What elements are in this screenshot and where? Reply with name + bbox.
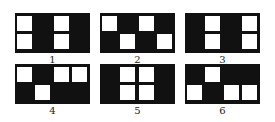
white-square: [242, 85, 257, 100]
white-square: [35, 85, 50, 100]
pattern-panel-4: [15, 64, 90, 104]
pattern-panel-6: [185, 64, 260, 104]
white-square: [157, 34, 172, 49]
white-square: [17, 34, 32, 49]
white-square: [187, 85, 202, 100]
white-square: [102, 16, 117, 31]
white-square: [139, 67, 154, 82]
pattern-panel-5: [100, 64, 175, 104]
white-square: [17, 16, 32, 31]
white-square: [54, 34, 69, 49]
white-square: [72, 67, 87, 82]
white-square: [54, 16, 69, 31]
white-square: [139, 16, 154, 31]
white-square: [205, 67, 220, 82]
white-square: [242, 16, 257, 31]
white-square: [120, 85, 135, 100]
white-square: [224, 85, 239, 100]
white-square: [139, 85, 154, 100]
white-square: [205, 34, 220, 49]
pattern-panel-2: [100, 13, 175, 53]
white-square: [205, 16, 220, 31]
panel-label-5: 5: [100, 106, 175, 116]
white-square: [54, 67, 69, 82]
pattern-panel-3: [185, 13, 260, 53]
white-square: [120, 34, 135, 49]
white-square: [242, 34, 257, 49]
pattern-panel-1: [15, 13, 90, 53]
white-square: [17, 67, 32, 82]
panel-label-4: 4: [15, 106, 90, 116]
white-square: [120, 67, 135, 82]
panel-label-6: 6: [185, 106, 260, 116]
